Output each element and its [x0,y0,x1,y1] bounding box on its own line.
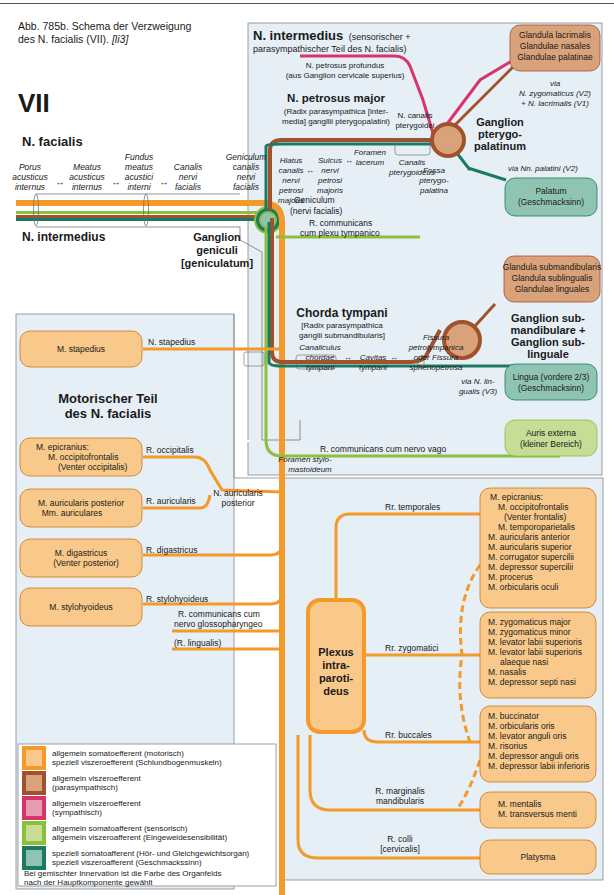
svg-text:Canalis: Canalis [174,162,203,172]
svg-text:↔: ↔ [56,177,65,187]
svg-text:M. auricularis superior: M. auricularis superior [488,542,572,552]
svg-text:Cavitas: Cavitas [360,353,387,362]
svg-text:posterior: posterior [221,498,254,508]
svg-text:allgemein viszeroafferent (Ein: allgemein viszeroafferent (Eingeweidesen… [52,833,227,842]
svg-text:meatus: meatus [125,162,154,172]
svg-text:lacerum: lacerum [356,158,385,167]
label-ganglion-geniculi: Ganglion geniculi [geniculatum] [181,231,253,269]
svg-text:M. zygomaticus minor: M. zygomaticus minor [488,627,571,637]
svg-text:(Venter occipitalis): (Venter occipitalis) [58,462,128,472]
svg-text:allgemein somatoafferent (sens: allgemein somatoafferent (sensorisch) [52,824,188,833]
svg-text:mandibulare +: mandibulare + [511,324,586,336]
svg-text:Ganglion: Ganglion [476,116,524,128]
svg-text:N. canalis: N. canalis [397,111,432,120]
svg-text:deus: deus [323,685,349,697]
svg-text:Rr. temporales: Rr. temporales [385,502,440,512]
svg-text:+ N. lacrimalis (V1): + N. lacrimalis (V1) [521,99,589,108]
svg-text:R. auricularis: R. auricularis [146,496,196,506]
svg-text:Glandula submandibularis: Glandula submandibularis [503,262,601,272]
svg-text:nervo glossopharyngeo: nervo glossopharyngeo [174,619,263,629]
svg-text:mandibularis: mandibularis [376,796,424,806]
svg-text:Rr. zygomatici: Rr. zygomatici [385,643,438,653]
box-lingua [505,364,597,400]
svg-text:tympani: tympani [306,363,334,372]
svg-text:linguale: linguale [527,348,569,360]
svg-text:Geniculum: Geniculum [226,152,267,162]
legend-swatches [24,748,44,868]
svg-text:geniculi: geniculi [196,244,238,256]
svg-text:Sulcus: Sulcus [318,156,342,165]
svg-text:Rr. buccales: Rr. buccales [385,730,432,740]
svg-text:pterygo-: pterygo- [418,176,449,185]
svg-text:palatina: palatina [419,186,449,195]
svg-text:media] gangllii pterygopalatin: media] gangllii pterygopalatini) [282,117,390,126]
svg-text:acustici: acustici [125,172,154,182]
svg-text:(R. lingualis): (R. lingualis) [174,638,221,648]
label-petrosus-major: N. petrosus major [287,92,385,104]
svg-text:N. stapedius: N. stapedius [148,337,195,347]
svg-text:↔: ↔ [345,156,353,165]
intermedius-subtitle: parasympathischer Teil des N. facialis) [253,44,406,54]
svg-text:Meatus: Meatus [73,162,102,172]
svg-text:des N. facialis: des N. facialis [65,406,152,421]
label-chorda-tympani: Chorda tympani [296,306,387,320]
svg-text:M. auricularis anterior: M. auricularis anterior [488,532,570,542]
svg-text:M. stapedius: M. stapedius [57,344,105,354]
svg-text:pterygoidei: pterygoidei [395,121,434,130]
facial-nerve-diagram: VII N. facialis N. intermedius Ganglion … [0,0,614,895]
svg-text:(kleiner Bereich): (kleiner Bereich) [520,439,582,449]
svg-text:M. levator anguli oris: M. levator anguli oris [488,731,566,741]
svg-text:(Venter posterior): (Venter posterior) [53,558,119,568]
svg-text:sphenopetrosa: sphenopetrosa [410,363,463,372]
svg-text:ganglii submandibularis]: ganglii submandibularis] [299,331,385,340]
svg-text:M. nasalis: M. nasalis [488,667,526,677]
label-r-comm-vago: R. communicans cum nervo vago [320,444,446,454]
svg-text:M. corrugator supercilii: M. corrugator supercilii [488,552,574,562]
svg-text:internus: internus [15,182,46,192]
svg-text:(Radix parasympathica [inter-: (Radix parasympathica [inter- [284,107,389,116]
svg-text:R. stylohyoideus: R. stylohyoideus [146,594,208,604]
svg-text:Glandula sublingualis: Glandula sublingualis [512,273,593,283]
svg-text:M. depressor septi nasi: M. depressor septi nasi [488,677,576,687]
svg-text:M. mentalis: M. mentalis [498,799,541,809]
svg-text:Porus: Porus [19,162,42,172]
svg-text:Foramen: Foramen [354,148,387,157]
motor-title: Motorischer Teil des N. facialis [58,391,157,421]
label-plexus-intraparotideus: Plexus intra- paroti- deus [318,646,353,697]
svg-text:M. occipitofrontalis: M. occipitofrontalis [498,502,568,512]
svg-text:Platysma: Platysma [521,852,556,862]
svg-text:↔: ↔ [306,166,314,175]
svg-text:speziell viszeroafferent (Gesc: speziell viszeroafferent (Geschmackssinn… [52,858,202,867]
svg-text:M. epicranius:: M. epicranius: [490,492,543,502]
svg-text:N. petrosus profundus: N. petrosus profundus [306,61,385,70]
svg-text:M. transversus menti: M. transversus menti [498,809,577,819]
svg-text:nervi: nervi [321,166,339,175]
svg-text:gualis (V3): gualis (V3) [459,387,498,396]
svg-text:tympani: tympani [359,363,387,372]
svg-text:acusticus: acusticus [69,172,105,182]
svg-text:Hiatus: Hiatus [280,156,303,165]
svg-text:(Geschmacksinn): (Geschmacksinn) [518,197,584,207]
svg-text:nervi: nervi [179,172,199,182]
box-auris-externa [505,420,597,456]
svg-text:Fundus: Fundus [125,152,154,162]
svg-text:[cervicalis]: [cervicalis] [380,844,420,854]
svg-text:alaeque nasi: alaeque nasi [500,657,548,667]
svg-text:[Radix parasympathica: [Radix parasympathica [301,321,383,330]
svg-text:M. digastricus: M. digastricus [55,548,107,558]
svg-text:M. orbicularis oris: M. orbicularis oris [488,721,555,731]
svg-text:facialis: facialis [175,182,202,192]
svg-text:nach der Hauptkomponente gewäh: nach der Hauptkomponente gewählt [24,878,153,887]
svg-text:M. depressor labii inferioris: M. depressor labii inferioris [488,761,590,771]
svg-text:Glandula lacrimalis: Glandula lacrimalis [519,30,591,40]
svg-text:M. risorius: M. risorius [488,741,527,751]
svg-text:allgemein somatoefferent (moto: allgemein somatoefferent (motorisch) [52,749,184,758]
svg-text:mastoideum: mastoideum [288,465,332,474]
svg-text:Geniculum: Geniculum [294,195,335,205]
svg-text:via: via [550,79,561,88]
svg-text:M. levator labii superioris: M. levator labii superioris [488,647,582,657]
svg-text:allgemein viszeroefferent: allgemein viszeroefferent [52,774,142,783]
label-n-intermedius: N. intermedius [22,230,106,244]
ganglion-pterygopalatinum [432,124,464,156]
svg-text:N. auricularis: N. auricularis [213,488,263,498]
